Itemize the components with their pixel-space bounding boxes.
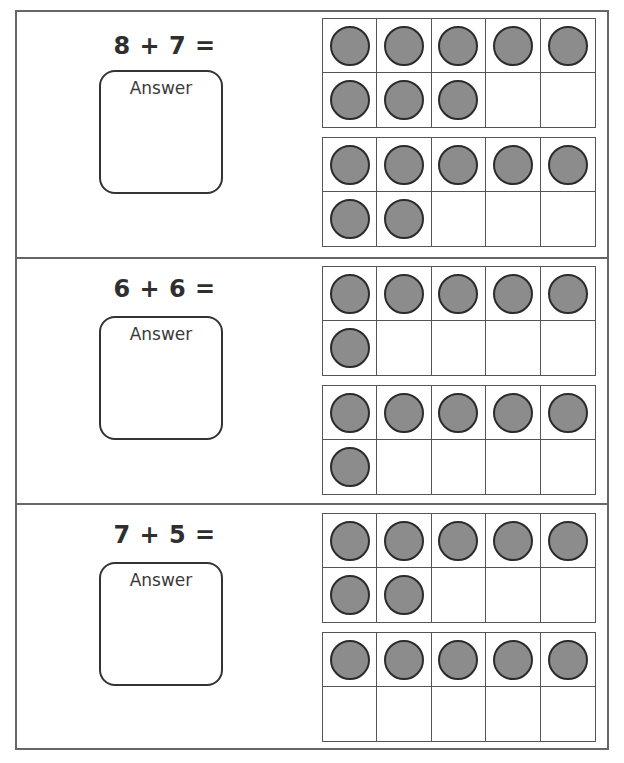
counter-dot-icon [548, 274, 588, 314]
counter-dot-icon [330, 640, 370, 680]
ten-frame-first-addend [322, 18, 596, 128]
counter-dot-icon [330, 274, 370, 314]
ten-frame-cell [486, 73, 540, 127]
ten-frame-first-addend [322, 266, 596, 376]
counter-dot-icon [548, 145, 588, 185]
ten-frame-cell [486, 192, 540, 246]
ten-frame-cell [432, 73, 486, 127]
counter-dot-icon [493, 274, 533, 314]
ten-frame-cell [323, 633, 377, 687]
counter-dot-icon [493, 393, 533, 433]
ten-frame-cell [541, 514, 595, 568]
ten-frame-cell [432, 440, 486, 494]
ten-frame-cell [541, 138, 595, 192]
counter-dot-icon [548, 393, 588, 433]
ten-frame-cell [377, 633, 431, 687]
problem-section-2: 6 + 6 = Answer [17, 257, 607, 503]
counter-dot-icon [548, 26, 588, 66]
ten-frame-cell [541, 386, 595, 440]
counter-dot-icon [330, 393, 370, 433]
ten-frame-cell [323, 192, 377, 246]
counter-dot-icon [330, 199, 370, 239]
ten-frame-cell [541, 73, 595, 127]
counter-dot-icon [330, 575, 370, 615]
counter-dot-icon [548, 640, 588, 680]
problem-section-3: 7 + 5 = Answer [17, 503, 607, 750]
ten-frame-cell [432, 321, 486, 375]
ten-frame-cell [486, 321, 540, 375]
ten-frame-cell [377, 192, 431, 246]
counter-dot-icon [438, 274, 478, 314]
ten-frame-cell [541, 440, 595, 494]
ten-frame-cell [323, 19, 377, 73]
ten-frame-cell [432, 138, 486, 192]
ten-frame-cell [323, 687, 377, 741]
answer-box[interactable]: Answer [99, 316, 223, 440]
ten-frame-cell [323, 267, 377, 321]
equation: 8 + 7 = [77, 32, 252, 60]
ten-frame-cell [323, 568, 377, 622]
ten-frame-cell [377, 440, 431, 494]
answer-box[interactable]: Answer [99, 562, 223, 686]
ten-frame-cell [486, 633, 540, 687]
answer-label: Answer [101, 324, 221, 344]
ten-frame-cell [486, 267, 540, 321]
counter-dot-icon [384, 145, 424, 185]
ten-frame-cell [377, 321, 431, 375]
counter-dot-icon [330, 447, 370, 487]
ten-frame-cell [486, 440, 540, 494]
ten-frame-cell [377, 514, 431, 568]
ten-frame-first-addend [322, 513, 596, 623]
counter-dot-icon [493, 521, 533, 561]
counter-dot-icon [438, 640, 478, 680]
ten-frame-cell [486, 514, 540, 568]
counter-dot-icon [384, 521, 424, 561]
ten-frame-cell [323, 386, 377, 440]
ten-frame-cell [486, 138, 540, 192]
ten-frame-cell [377, 568, 431, 622]
counter-dot-icon [438, 145, 478, 185]
counter-dot-icon [384, 26, 424, 66]
answer-label: Answer [101, 78, 221, 98]
counter-dot-icon [330, 80, 370, 120]
ten-frame-cell [323, 440, 377, 494]
counter-dot-icon [384, 393, 424, 433]
counter-dot-icon [384, 80, 424, 120]
counter-dot-icon [384, 575, 424, 615]
ten-frame-cell [486, 568, 540, 622]
counter-dot-icon [438, 521, 478, 561]
ten-frame-cell [323, 138, 377, 192]
counter-dot-icon [330, 328, 370, 368]
ten-frame-cell [432, 687, 486, 741]
equation: 6 + 6 = [77, 275, 252, 303]
counter-dot-icon [384, 640, 424, 680]
ten-frame-cell [377, 19, 431, 73]
ten-frame-cell [541, 687, 595, 741]
counter-dot-icon [330, 521, 370, 561]
ten-frame-cell [432, 386, 486, 440]
ten-frame-second-addend [322, 385, 596, 495]
counter-dot-icon [493, 640, 533, 680]
ten-frame-cell [541, 633, 595, 687]
ten-frame-cell [541, 568, 595, 622]
answer-label: Answer [101, 570, 221, 590]
ten-frame-cell [541, 267, 595, 321]
ten-frame-cell [432, 19, 486, 73]
ten-frame-cell [541, 321, 595, 375]
counter-dot-icon [384, 199, 424, 239]
ten-frame-cell [377, 138, 431, 192]
counter-dot-icon [548, 521, 588, 561]
ten-frame-cell [486, 386, 540, 440]
counter-dot-icon [438, 393, 478, 433]
ten-frame-cell [323, 321, 377, 375]
answer-box[interactable]: Answer [99, 70, 223, 194]
ten-frame-cell [377, 687, 431, 741]
ten-frame-cell [432, 514, 486, 568]
ten-frame-cell [486, 687, 540, 741]
counter-dot-icon [493, 145, 533, 185]
ten-frame-cell [377, 386, 431, 440]
counter-dot-icon [330, 26, 370, 66]
ten-frame-cell [323, 73, 377, 127]
ten-frame-second-addend [322, 137, 596, 247]
counter-dot-icon [330, 145, 370, 185]
